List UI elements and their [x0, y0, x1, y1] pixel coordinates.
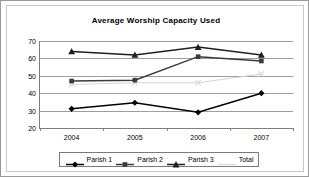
series-line: [72, 47, 262, 55]
legend-label: Parish 2: [137, 156, 163, 163]
legend-marker-diamond-icon: [65, 155, 85, 164]
chart-legend: Parish 1Parish 2Parish 3Total: [59, 152, 259, 167]
legend-label: Parish 3: [188, 156, 214, 163]
data-point-marker: [123, 162, 128, 167]
series-parish-2: [69, 54, 263, 83]
series-line: [72, 57, 262, 81]
series-parish-3: [68, 44, 265, 58]
x-axis-tick-label: 2004: [64, 134, 80, 141]
legend-label: Total: [239, 156, 254, 163]
x-axis-tick-mark: [103, 128, 104, 131]
chart-title: Average Worship Capacity Used: [7, 16, 305, 25]
legend-marker-square-icon: [115, 155, 135, 164]
x-axis-tick-label: 2006: [190, 134, 206, 141]
data-point-marker: [69, 106, 75, 112]
x-axis-tick-mark: [167, 128, 168, 131]
legend-item-parish-1: Parish 1: [65, 155, 113, 164]
data-point-marker: [258, 90, 264, 96]
y-axis-tick-label: 50: [28, 72, 36, 79]
legend-item-total: Total: [217, 155, 254, 164]
series-line: [72, 93, 262, 112]
data-point-marker: [71, 161, 77, 167]
data-point-marker: [196, 54, 201, 59]
series-parish-1: [69, 90, 265, 115]
data-point-marker: [69, 79, 74, 84]
legend-item-parish-3: Parish 3: [166, 155, 214, 164]
plot-area: 203040506070 2004200520062007: [39, 41, 293, 129]
x-axis-tick-label: 2005: [127, 134, 143, 141]
series-plot: [40, 41, 293, 128]
x-axis-tick-mark: [40, 128, 41, 131]
y-axis-tick-label: 70: [28, 38, 36, 45]
chart-container: Average Worship Capacity Used 2030405060…: [6, 5, 304, 172]
series-line: [72, 74, 262, 84]
x-axis-tick-label: 2007: [254, 134, 270, 141]
y-axis-tick-label: 20: [28, 125, 36, 132]
legend-marker-triangle-icon: [166, 155, 186, 164]
x-axis-tick-mark: [230, 128, 231, 131]
data-point-marker: [259, 59, 264, 64]
legend-item-parish-2: Parish 2: [115, 155, 163, 164]
y-axis-tick-label: 30: [28, 107, 36, 114]
legend-marker-x-icon: [217, 155, 237, 164]
data-point-marker: [132, 100, 138, 106]
chart-outer-frame: Average Worship Capacity Used 2030405060…: [0, 0, 309, 177]
data-point-marker: [195, 109, 201, 115]
series-total: [69, 71, 264, 87]
x-axis-tick-mark: [293, 128, 294, 131]
legend-label: Parish 1: [87, 156, 113, 163]
y-axis-tick-label: 60: [28, 55, 36, 62]
data-point-marker: [133, 78, 138, 83]
y-axis-tick-label: 40: [28, 90, 36, 97]
